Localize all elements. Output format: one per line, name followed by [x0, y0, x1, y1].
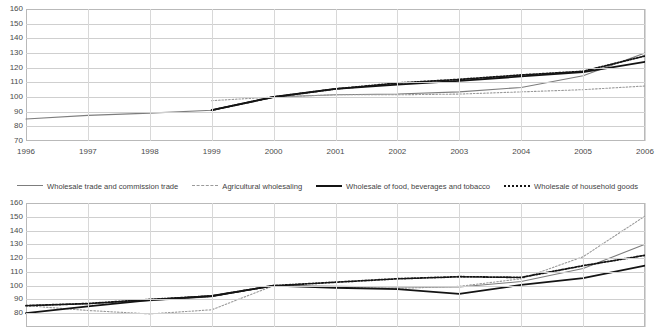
chart-top-plot-area — [26, 9, 645, 141]
y-tick-label: 140 — [1, 34, 23, 42]
x-tick-gridline — [583, 9, 584, 141]
legend-item-2[interactable]: Wholesale of food, beverages and tobacco — [316, 182, 490, 191]
x-tick-gridline — [459, 203, 460, 327]
x-tick-label: 1998 — [141, 147, 159, 156]
x-tick-label: 2005 — [574, 147, 592, 156]
chart-bottom-plot-area — [26, 203, 645, 327]
y-tick-label: 100 — [1, 93, 23, 101]
x-tick-gridline — [150, 9, 151, 141]
chart-bottom-y-axis-labels: 8090100110120130140150160 — [0, 200, 23, 327]
legend-item-0[interactable]: Wholesale trade and commission trade — [17, 182, 178, 191]
legend-item-label: Wholesale of household goods — [534, 182, 638, 191]
x-tick-gridline — [150, 203, 151, 327]
x-tick-label: 2000 — [265, 147, 283, 156]
y-tick-label: 150 — [1, 213, 23, 221]
x-tick-gridline — [336, 9, 337, 141]
x-tick-gridline — [88, 9, 89, 141]
x-tick-label: 2003 — [450, 147, 468, 156]
x-tick-label: 1999 — [203, 147, 221, 156]
x-tick-label: 2001 — [327, 147, 345, 156]
x-tick-label: 1997 — [79, 147, 97, 156]
y-tick-label: 120 — [1, 64, 23, 72]
x-tick-label: 2004 — [512, 147, 530, 156]
legend-item-label: Agricultural wholesaling — [222, 182, 302, 191]
x-tick-label: 2006 — [636, 147, 654, 156]
x-tick-gridline — [459, 9, 460, 141]
y-tick-label: 90 — [1, 295, 23, 303]
y-tick-label: 100 — [1, 282, 23, 290]
x-tick-gridline — [645, 9, 646, 141]
legend-item-3[interactable]: Wholesale of household goods — [504, 182, 638, 191]
y-tick-label: 150 — [1, 20, 23, 28]
x-tick-gridline — [521, 203, 522, 327]
x-tick-gridline — [88, 203, 89, 327]
legend-swatch-icon — [316, 183, 342, 189]
x-tick-gridline — [397, 9, 398, 141]
y-tick-label: 130 — [1, 240, 23, 248]
legend-swatch-icon — [17, 183, 43, 189]
y-tick-label: 70 — [1, 137, 23, 145]
y-tick-label: 120 — [1, 254, 23, 262]
x-tick-gridline — [336, 203, 337, 327]
legend-item-label: Wholesale trade and commission trade — [47, 182, 178, 191]
x-tick-gridline — [583, 203, 584, 327]
y-tick-label: 130 — [1, 49, 23, 57]
legend-swatch-icon — [192, 183, 218, 189]
y-tick-label: 160 — [1, 5, 23, 13]
x-tick-gridline — [274, 9, 275, 141]
x-tick-gridline — [645, 203, 646, 327]
y-tick-label: 110 — [1, 268, 23, 276]
chart-bottom-wholesale-index: 8090100110120130140150160 — [0, 200, 655, 327]
y-tick-label: 90 — [1, 108, 23, 116]
y-tick-label: 80 — [1, 309, 23, 317]
x-tick-gridline — [212, 9, 213, 141]
chart-legend: Wholesale trade and commission tradeAgri… — [0, 179, 655, 193]
legend-swatch-icon — [504, 183, 530, 189]
x-tick-gridline — [274, 203, 275, 327]
y-tick-label: 140 — [1, 227, 23, 235]
series-line-2 — [212, 62, 645, 110]
x-tick-label: 1996 — [17, 147, 35, 156]
legend-item-label: Wholesale of food, beverages and tobacco — [346, 182, 490, 191]
x-tick-label: 2002 — [388, 147, 406, 156]
x-tick-gridline — [212, 203, 213, 327]
chart-top-y-axis-labels: 708090100110120130140150160 — [0, 0, 23, 168]
legend-item-1[interactable]: Agricultural wholesaling — [192, 182, 302, 191]
x-tick-gridline — [521, 9, 522, 141]
x-tick-gridline — [397, 203, 398, 327]
y-tick-label: 80 — [1, 122, 23, 130]
chart-top-x-axis-labels: 1996199719981999200020012002200320042005… — [26, 147, 645, 159]
y-tick-label: 160 — [1, 199, 23, 207]
chart-top-wholesale-index: 708090100110120130140150160 199619971998… — [0, 0, 655, 168]
chart-page: 708090100110120130140150160 199619971998… — [0, 0, 655, 327]
y-tick-label: 110 — [1, 78, 23, 86]
